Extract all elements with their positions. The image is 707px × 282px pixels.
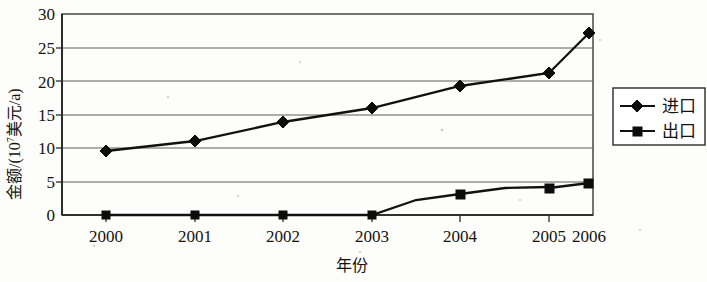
y-axis-title-prefix: 金额/(10 [6,142,24,200]
data-point-export-2003 [368,211,376,219]
y-tick-label-30: 30 [38,5,55,24]
legend-label-import: 进口 [662,96,696,116]
data-point-import-2001 [189,135,201,147]
series-import-line [106,33,589,151]
x-tick-label-2004: 2004 [443,227,478,246]
data-point-export-2002 [279,211,287,219]
y-axis-tick-labels: 30 25 20 15 10 5 0 [38,5,55,225]
x-tick-label-2005: 2005 [532,227,566,246]
x-axis-title: 年份 [336,256,368,275]
data-point-export-2004 [456,190,465,199]
series-export-markers [102,179,593,219]
y-tick-label-0: 0 [47,206,56,225]
data-point-import-2004 [454,80,466,92]
series-export-line-tail [549,183,589,188]
y-axis-title-suffix: 美元/a) [6,88,24,137]
series-import [100,27,595,157]
y-axis-ticks [56,48,62,182]
series-export [102,179,593,219]
chart-legend: 进口 出口 [613,88,705,145]
y-tick-label-5: 5 [47,173,56,192]
x-axis-tick-labels: 2000 2001 2002 2003 2004 2005 2006 [89,227,606,246]
y-axis-title: 金额/(107美元/a) [5,88,24,200]
series-import-markers [100,27,595,157]
x-tick-label-2001: 2001 [178,227,212,246]
data-point-import-2002 [277,116,289,128]
y-tick-label-20: 20 [38,73,55,92]
chart-figure: 30 25 20 15 10 5 0 金额/(107美元/a) [0,0,707,282]
series-export-line [106,187,549,215]
x-tick-label-2002: 2002 [266,227,300,246]
scan-noise [93,39,641,253]
data-point-import-2003 [366,102,378,114]
line-chart: 30 25 20 15 10 5 0 金额/(107美元/a) [0,0,707,282]
data-point-export-2001 [191,211,199,219]
y-tick-label-10: 10 [38,139,55,158]
y-tick-label-25: 25 [38,39,55,58]
svg-text:金额/(107美元/a): 金额/(107美元/a) [5,88,24,200]
x-tick-label-2000: 2000 [89,227,123,246]
data-point-export-2000 [102,211,110,219]
legend-label-export: 出口 [662,121,696,141]
y-tick-label-15: 15 [38,106,55,125]
x-tick-label-2003: 2003 [355,227,389,246]
x-tick-label-2006: 2006 [572,227,606,246]
legend-marker-square-icon [633,127,642,136]
data-point-import-2000 [100,145,112,157]
